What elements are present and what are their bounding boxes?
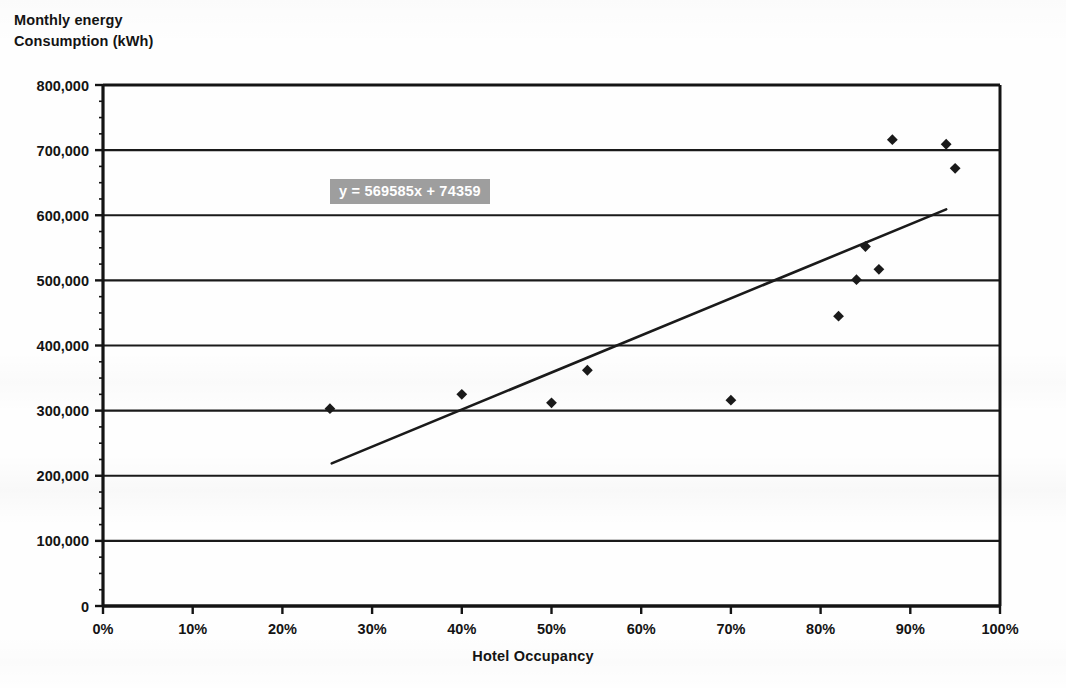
y-tick-group: 0100,000200,000300,000400,000500,000600,…: [37, 78, 103, 615]
gridlines-group: [103, 150, 1000, 541]
y-tick-label: 700,000: [37, 143, 89, 159]
x-tick-label: 30%: [358, 621, 387, 637]
data-point-marker: [851, 274, 862, 285]
data-point-marker: [950, 163, 961, 174]
y-tick-label: 400,000: [37, 338, 89, 354]
data-points-group: [325, 134, 961, 414]
trendline: [332, 209, 946, 463]
trendline-equation-label: y = 569585x + 74359: [330, 179, 490, 204]
data-point-marker: [726, 395, 737, 406]
x-tick-label: 0%: [93, 621, 114, 637]
y-tick-label: 500,000: [37, 273, 89, 289]
x-axis-title: Hotel Occupancy: [0, 648, 1066, 664]
y-tick-label: 100,000: [37, 533, 89, 549]
y-tick-label: 800,000: [37, 78, 89, 94]
scatter-chart: 0100,000200,000300,000400,000500,000600,…: [0, 0, 1066, 688]
y-tick-label: 200,000: [37, 468, 89, 484]
x-tick-label: 60%: [627, 621, 656, 637]
y-tick-label: 300,000: [37, 403, 89, 419]
y-tick-label: 600,000: [37, 208, 89, 224]
x-tick-label: 50%: [537, 621, 566, 637]
data-point-marker: [887, 134, 898, 145]
trendline-equation-text: y = 569585x + 74359: [339, 183, 481, 199]
data-point-marker: [860, 241, 871, 252]
data-point-marker: [582, 365, 593, 376]
data-point-marker: [941, 139, 952, 150]
data-point-marker: [874, 264, 885, 275]
y-tick-label: 0: [81, 599, 89, 615]
x-tick-label: 40%: [447, 621, 476, 637]
trendline-segment: [332, 209, 946, 463]
data-point-marker: [456, 389, 467, 400]
chart-page: Monthly energyConsumption (kWh) 0100,000…: [0, 0, 1066, 688]
x-tick-label: 80%: [806, 621, 835, 637]
x-tick-group: 0%10%20%30%40%50%60%70%80%90%100%: [93, 606, 1019, 637]
x-tick-label: 20%: [268, 621, 297, 637]
x-tick-label: 70%: [716, 621, 745, 637]
x-tick-label: 100%: [981, 621, 1018, 637]
data-point-marker: [325, 403, 336, 414]
data-point-marker: [833, 311, 844, 322]
data-point-marker: [546, 397, 557, 408]
x-tick-label: 10%: [178, 621, 207, 637]
x-tick-label: 90%: [896, 621, 925, 637]
